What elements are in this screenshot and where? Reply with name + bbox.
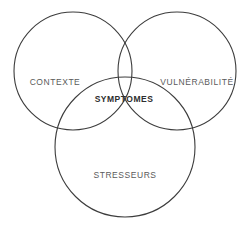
venn-circles-group: [0, 0, 250, 238]
circle-vulnerabilite: [118, 12, 236, 130]
label-stresseurs: STRESSEURS: [93, 171, 156, 180]
circle-contexte: [14, 12, 132, 130]
venn-diagram: CONTEXTE VULNÉRABILITÉ SYMPTOMES STRESSE…: [0, 0, 250, 238]
label-symptomes: SYMPTOMES: [95, 95, 154, 104]
label-contexte: CONTEXTE: [30, 78, 81, 87]
label-vulnerabilite: VULNÉRABILITÉ: [160, 78, 233, 87]
